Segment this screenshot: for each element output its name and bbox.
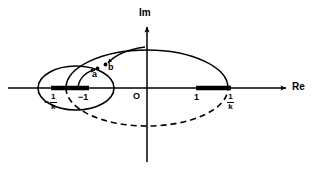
tick-label-neg-one-over-k: − 1 k	[44, 93, 57, 111]
tick-label-one: 1	[194, 93, 199, 102]
tick-numerator: 1	[227, 93, 233, 101]
tick-label-one-over-k: 1 k	[227, 93, 234, 111]
tick-neg-sign: −	[44, 98, 49, 107]
tick-numerator: 1	[51, 93, 55, 101]
tick-fraction-stack: 1 k	[50, 93, 57, 111]
origin-label: O	[133, 92, 140, 101]
imaginary-axis-label: Im	[139, 8, 151, 18]
point-b-label: b	[108, 63, 114, 72]
real-axis-label: Re	[292, 82, 305, 92]
point-b-marker	[104, 63, 108, 67]
tick-label-neg-one: −1	[78, 93, 88, 102]
complex-plane-figure: Im Re O a b − 1 k −1 1 1 k	[0, 0, 318, 170]
figure-canvas	[0, 0, 318, 170]
point-a-label: a	[92, 70, 97, 79]
tick-denominator: k	[51, 103, 55, 111]
tick-denominator: k	[227, 103, 233, 111]
